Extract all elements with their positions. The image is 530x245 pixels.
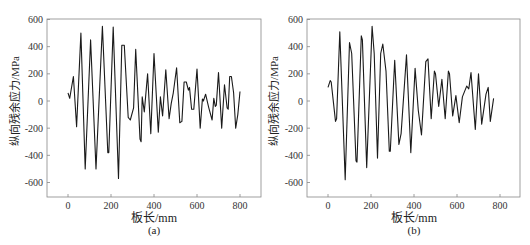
y-axis-label-a: 纵向残余应力/MPa bbox=[6, 21, 22, 181]
chart-panel-b: -600-400-20002004006000200400600800 纵向残余… bbox=[265, 0, 530, 245]
y-axis-label-b: 纵向残余应力/MPa bbox=[265, 21, 281, 181]
y-tick-label: 0 bbox=[38, 96, 43, 107]
y-tick-label: 400 bbox=[288, 41, 303, 52]
y-tick-label: -400 bbox=[285, 150, 303, 161]
data-line bbox=[68, 26, 240, 178]
y-tick-label: -400 bbox=[25, 150, 43, 161]
y-tick-label: -600 bbox=[285, 177, 303, 188]
y-tick-label: 400 bbox=[28, 41, 43, 52]
x-tick-label: 0 bbox=[66, 200, 71, 211]
y-tick-label: 200 bbox=[288, 68, 303, 79]
x-tick-label: 0 bbox=[326, 200, 331, 211]
y-tick-label: 0 bbox=[298, 96, 303, 107]
x-tick-label: 800 bbox=[233, 200, 248, 211]
y-tick-label: -200 bbox=[285, 123, 303, 134]
caption-a: (a) bbox=[134, 224, 174, 236]
y-tick-label: -200 bbox=[25, 123, 43, 134]
plot-frame bbox=[47, 19, 261, 197]
caption-b: (b) bbox=[394, 224, 434, 236]
y-tick-label: -600 bbox=[25, 177, 43, 188]
data-line bbox=[328, 26, 494, 180]
y-tick-label: 600 bbox=[28, 14, 43, 25]
x-tick-label: 800 bbox=[493, 200, 508, 211]
y-tick-label: 600 bbox=[288, 14, 303, 25]
y-tick-label: 200 bbox=[28, 68, 43, 79]
chart-panel-a: -600-400-20002004006000200400600800 纵向残余… bbox=[0, 0, 265, 245]
